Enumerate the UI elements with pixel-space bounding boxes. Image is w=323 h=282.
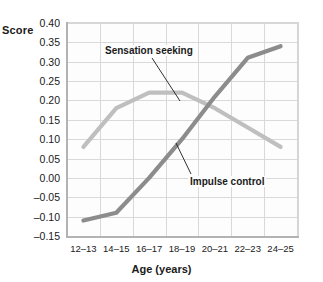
x-tick-label: 12–13 <box>70 243 96 254</box>
x-tick-labels: 12–1314–1516–1718–1920–2122–2324–25 <box>0 0 323 282</box>
line-chart: 0.400.350.300.250.200.150.100.050.00–0.0… <box>0 0 323 282</box>
x-tick-label: 20–21 <box>202 243 228 254</box>
x-tick-label: 24–25 <box>267 243 293 254</box>
x-tick-label: 18–19 <box>169 243 195 254</box>
x-tick-label: 22–23 <box>234 243 260 254</box>
y-axis-title: Score <box>2 24 34 36</box>
x-tick-label: 14–15 <box>103 243 129 254</box>
annotation-impulse-control: Impulse control <box>188 176 266 187</box>
x-tick-label: 16–17 <box>136 243 162 254</box>
x-axis-title: Age (years) <box>0 263 323 275</box>
annotation-sensation-seeking: Sensation seeking <box>103 45 195 56</box>
